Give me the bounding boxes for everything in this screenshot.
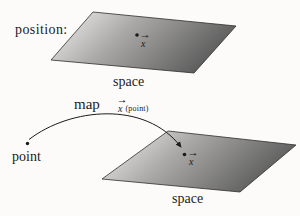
x-vector-symbol: →x: [189, 154, 193, 167]
x-vector-symbol: →x: [118, 101, 122, 114]
x-symbol: x: [189, 156, 193, 167]
x-symbol: x: [118, 103, 122, 114]
formula-argument: (point): [125, 104, 148, 113]
point-dot: [26, 142, 29, 145]
position-label: position:: [15, 22, 68, 37]
x-vector-label-top: →x: [141, 36, 145, 49]
vector-arrow-icon: →: [118, 98, 125, 104]
position-dot-top: [135, 33, 139, 37]
mapped-position-dot: [183, 153, 187, 157]
vector-arrow-icon: →: [189, 151, 196, 157]
vector-arrow-icon: →: [141, 33, 148, 39]
space-label-bottom: space: [172, 191, 203, 206]
x-symbol: x: [141, 38, 145, 49]
point-label: point: [12, 149, 41, 164]
figure-canvas: position: space →x map →x (point) point …: [0, 0, 300, 216]
map-value-formula: →x (point): [118, 101, 149, 114]
space-label-top: space: [113, 74, 144, 89]
x-vector-label-bottom: →x: [189, 154, 193, 167]
x-vector-symbol: →x: [141, 36, 145, 49]
map-label: map: [74, 96, 100, 113]
space-plane-bottom: [102, 131, 296, 192]
